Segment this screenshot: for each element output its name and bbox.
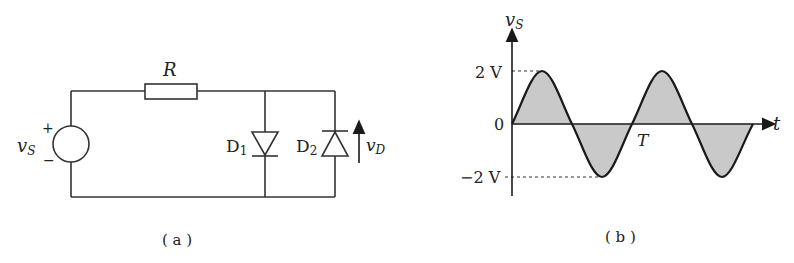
source-label: vS — [17, 135, 35, 158]
vd-label: vD — [366, 135, 386, 157]
caption-b: ( b ) — [605, 228, 636, 246]
diode-d2-icon — [322, 132, 348, 156]
source-plus-sign: + — [42, 120, 54, 136]
resistor-r — [145, 84, 197, 99]
tick-zero: 0 — [494, 115, 504, 134]
x-axis-label: t — [773, 113, 781, 134]
period-label: T — [637, 130, 650, 150]
caption-a: ( a ) — [162, 231, 192, 249]
tick-neg2v: −2 V — [460, 168, 501, 187]
figure-canvas: R + − vS D1 D2 vD ( a ) — [0, 0, 794, 263]
resistor-label: R — [162, 59, 177, 80]
y-axis-label: vS — [505, 9, 523, 32]
diode-d1-icon — [252, 132, 278, 155]
waveform-chart: vS t 2 V 0 −2 V T ( b ) — [460, 9, 781, 246]
diode-d1-label: D1 — [226, 136, 247, 158]
source-minus-sign: − — [43, 152, 55, 168]
circuit-diagram: R + − vS D1 D2 vD ( a ) — [17, 59, 386, 249]
voltage-source-icon — [53, 126, 89, 162]
diode-d2-label: D2 — [296, 136, 317, 158]
tick-2v: 2 V — [475, 63, 502, 82]
